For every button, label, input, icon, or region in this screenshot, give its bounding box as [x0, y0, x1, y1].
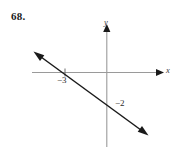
y-axis-label: y — [104, 17, 108, 27]
x-axis-arrowhead — [156, 69, 164, 76]
coordinate-plane — [0, 0, 179, 147]
line-arrowhead-lower-right — [138, 126, 149, 136]
line-arrowhead-upper-left — [34, 52, 45, 62]
y-intercept-label: −2 — [115, 98, 125, 108]
x-intercept-label: −3 — [57, 75, 67, 85]
graph-figure: 68. y x −3 −2 — [0, 0, 179, 147]
plotted-line — [39, 56, 143, 132]
x-axis-label: x — [166, 65, 170, 75]
